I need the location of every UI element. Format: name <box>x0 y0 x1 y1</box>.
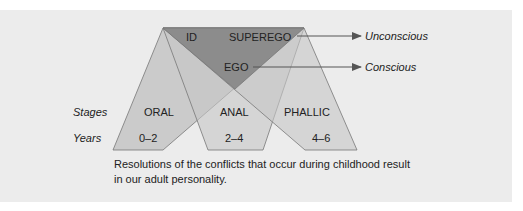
stage-years-phallic: 4–6 <box>312 132 330 144</box>
stage-name-anal: ANAL <box>220 106 249 118</box>
stage-name-oral: ORAL <box>144 106 174 118</box>
unconscious-label: Unconscious <box>365 30 428 42</box>
stage-name-phallic: PHALLIC <box>284 106 330 118</box>
stage-years-anal: 2–4 <box>225 132 243 144</box>
conscious-label: Conscious <box>365 61 417 73</box>
id-label: ID <box>186 31 197 43</box>
stages-row-label: Stages <box>73 106 108 118</box>
years-row-label: Years <box>73 132 102 144</box>
ego-label: EGO <box>224 61 249 73</box>
stage-years-oral: 0–2 <box>139 132 157 144</box>
diagram-caption: Resolutions of the conflicts that occur … <box>114 157 414 187</box>
superego-label: SUPEREGO <box>229 31 292 43</box>
